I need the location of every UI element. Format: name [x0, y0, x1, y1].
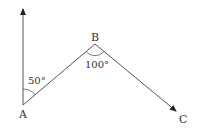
bearing-diagram: 50° 100° A B C [0, 0, 198, 134]
angle-label-b: 100° [85, 59, 109, 70]
segment-bc [95, 44, 176, 111]
angle-arc-b [86, 52, 104, 56]
point-label-b: B [91, 31, 99, 44]
angle-label-a: 50° [28, 75, 46, 86]
point-label-c: C [179, 113, 187, 126]
angle-arc-a [23, 89, 35, 95]
point-label-a: A [18, 108, 28, 121]
